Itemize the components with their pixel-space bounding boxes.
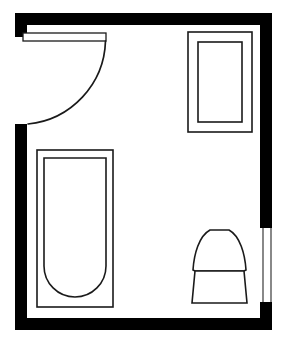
toilet[interactable] [192, 230, 247, 303]
bathtub[interactable] [37, 150, 113, 307]
floor-plan-drawing [0, 0, 285, 345]
top-wall [15, 13, 272, 25]
shower-stall-inner [198, 42, 242, 122]
left-wall-lower [15, 124, 27, 330]
door-panel[interactable] [23, 33, 106, 41]
bathtub-basin [44, 158, 106, 297]
shower-stall[interactable] [188, 32, 252, 132]
toilet-base [192, 271, 247, 303]
floor-plan-canvas [0, 0, 285, 345]
window-opening [260, 228, 272, 302]
right-wall-upper [260, 13, 272, 228]
bottom-wall [15, 318, 272, 330]
right-wall-window[interactable] [260, 228, 272, 302]
